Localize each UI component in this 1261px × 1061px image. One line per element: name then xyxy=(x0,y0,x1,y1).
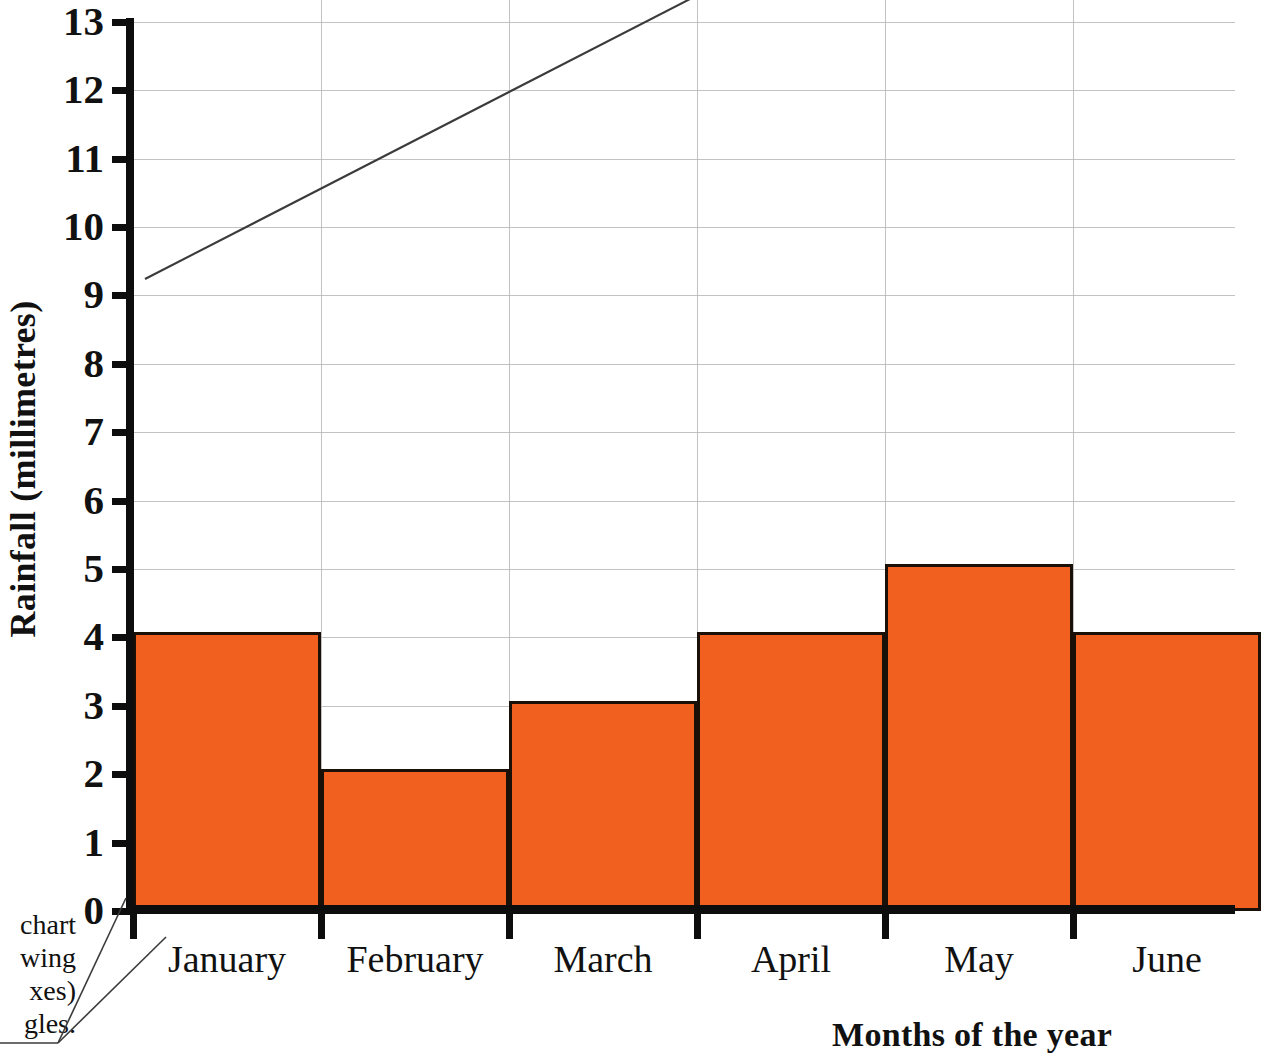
x-axis-label-june: June xyxy=(1073,940,1261,978)
x-axis-tick xyxy=(130,911,137,939)
x-axis-label-february: February xyxy=(321,940,509,978)
y-axis-tick-label: 6 xyxy=(44,480,104,521)
gridline-horizontal xyxy=(133,364,1235,365)
bar-april xyxy=(697,632,885,911)
y-axis-tick-label: 9 xyxy=(44,274,104,315)
y-axis-tick-label: 12 xyxy=(44,69,104,110)
bar-may xyxy=(885,564,1073,911)
gridline-horizontal xyxy=(133,159,1235,160)
x-axis-label-may: May xyxy=(885,940,1073,978)
gridline-horizontal xyxy=(133,501,1235,502)
gridline-horizontal xyxy=(133,432,1235,433)
bar-january xyxy=(133,632,321,911)
x-axis-label-january: January xyxy=(133,940,321,978)
y-axis-tick xyxy=(112,429,134,436)
y-axis-line xyxy=(126,18,134,915)
annotation-line: chart xyxy=(0,908,76,941)
y-axis-tick xyxy=(112,703,134,710)
x-axis-tick xyxy=(1070,911,1077,939)
y-axis-title: Rainfall (millimetres) xyxy=(2,234,44,704)
y-axis-tick-label: 10 xyxy=(44,206,104,247)
annotation-line: wing xyxy=(0,941,76,974)
x-axis-line xyxy=(126,905,1235,914)
y-axis-tick xyxy=(112,498,134,505)
bar-march xyxy=(509,701,697,911)
y-axis-tick xyxy=(112,156,134,163)
y-axis-tick-label: 7 xyxy=(44,411,104,452)
gridline-horizontal xyxy=(133,295,1235,296)
y-axis-tick-label: 11 xyxy=(44,138,104,179)
gridline-horizontal xyxy=(133,227,1235,228)
gridline-horizontal xyxy=(133,22,1235,23)
y-axis-tick xyxy=(112,292,134,299)
annotation-line: gles. xyxy=(0,1007,76,1040)
y-axis-tick xyxy=(112,87,134,94)
x-axis-label-march: March xyxy=(509,940,697,978)
plot-area xyxy=(133,0,1235,911)
y-axis-tick xyxy=(112,771,134,778)
bar-june xyxy=(1073,632,1261,911)
margin-annotation: chartwingxes)gles. xyxy=(0,908,76,1040)
bar-february xyxy=(321,769,509,911)
y-axis-tick xyxy=(112,566,134,573)
x-axis-tick xyxy=(882,911,889,939)
y-axis-tick-label: 4 xyxy=(44,616,104,657)
x-axis-tick xyxy=(318,911,325,939)
gridline-horizontal xyxy=(133,90,1235,91)
y-axis-tick-label: 8 xyxy=(44,343,104,384)
y-axis-tick xyxy=(112,634,134,641)
y-axis-tick xyxy=(112,361,134,368)
y-axis-tick xyxy=(112,224,134,231)
y-axis-tick-label: 1 xyxy=(44,822,104,863)
y-axis-tick-label: 13 xyxy=(44,1,104,42)
y-axis-tick-label: 3 xyxy=(44,685,104,726)
annotation-line: xes) xyxy=(0,974,76,1007)
x-axis-tick xyxy=(694,911,701,939)
x-axis-label-april: April xyxy=(697,940,885,978)
x-axis-title: Months of the year xyxy=(832,1016,1112,1054)
y-axis-tick xyxy=(112,840,134,847)
y-axis-tick-label: 5 xyxy=(44,548,104,589)
y-axis-tick-label: 2 xyxy=(44,753,104,794)
y-axis-tick xyxy=(112,19,134,26)
x-axis-tick xyxy=(506,911,513,939)
